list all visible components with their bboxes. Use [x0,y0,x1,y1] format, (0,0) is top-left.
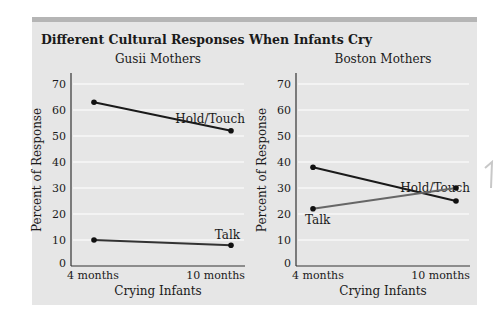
y-tick-label: 60 [277,104,291,117]
charts-canvas: Gusii Mothers010203040506070Percent of R… [0,0,500,320]
subplot-title: Gusii Mothers [115,52,201,66]
y-tick-label: 20 [52,208,66,221]
y-tick-label: 70 [52,78,66,91]
x-tick-label: 10 months [186,269,245,282]
subplot-title: Boston Mothers [335,52,432,66]
data-point [228,128,234,134]
y-tick-label: 20 [277,208,291,221]
series-label: Talk [305,213,331,227]
y-tick-label: 50 [277,130,291,143]
stray-pencil-mark [484,160,494,190]
x-axis-label: Crying Infants [114,284,202,298]
y-tick-label: 40 [52,156,66,169]
x-tick-label: 10 months [411,269,470,282]
data-point [310,164,316,170]
series-label: Hold/Touch [400,181,470,195]
data-point [91,237,97,243]
series-line-talk [94,240,231,245]
y-tick-label: 40 [277,156,291,169]
x-tick-label: 4 months [292,269,344,282]
x-tick-label: 4 months [67,269,119,282]
y-tick-label: 10 [277,234,291,247]
y-tick-label: 60 [52,104,66,117]
data-point [228,242,234,248]
y-tick-label: 50 [52,130,66,143]
data-point [310,206,316,212]
y-axis-label: Percent of Response [255,108,269,232]
y-tick-label: 70 [277,78,291,91]
y-tick-label: 30 [277,182,291,195]
y-tick-label: 0 [59,257,66,270]
series-label: Hold/Touch [175,112,245,126]
y-tick-label: 30 [52,182,66,195]
data-point [453,185,459,191]
series-line-talk [313,188,456,209]
y-axis-label: Percent of Response [30,108,44,232]
data-point [91,99,97,105]
series-label: Talk [215,228,241,242]
y-tick-label: 0 [284,257,291,270]
data-point [453,198,459,204]
y-tick-label: 10 [52,234,66,247]
x-axis-label: Crying Infants [339,284,427,298]
